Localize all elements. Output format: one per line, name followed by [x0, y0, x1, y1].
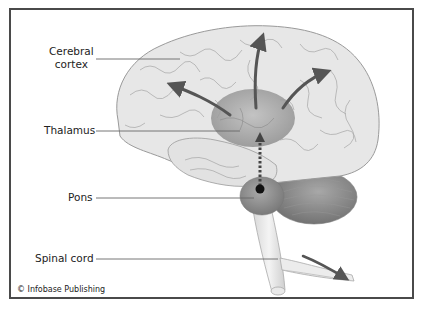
label-spinal-cord: Spinal cord: [35, 252, 94, 265]
origin-dot: [256, 185, 265, 194]
thalamus-shape: [211, 89, 295, 147]
label-pons: Pons: [68, 191, 93, 204]
label-cerebral-cortex: Cerebral cortex: [49, 45, 94, 71]
copyright-credit: © Infobase Publishing: [17, 285, 105, 294]
label-cerebral-cortex-line1: Cerebral: [49, 45, 94, 58]
label-thalamus: Thalamus: [44, 124, 95, 137]
pons-shape: [240, 177, 284, 215]
label-cerebral-cortex-line2: cortex: [49, 58, 94, 71]
